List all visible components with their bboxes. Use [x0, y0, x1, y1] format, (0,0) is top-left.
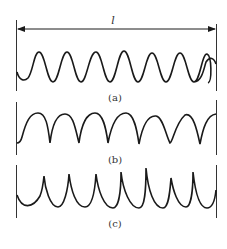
panel-label-a: (a)	[108, 92, 122, 103]
waveform-diagram	[0, 0, 227, 249]
panel-label-b: (b)	[108, 154, 122, 165]
dimension-label: l	[111, 14, 115, 27]
waveform-c	[17, 168, 216, 208]
waveform-b	[17, 113, 216, 144]
panel-label-c: (c)	[108, 218, 121, 229]
waveform-a	[17, 51, 216, 83]
